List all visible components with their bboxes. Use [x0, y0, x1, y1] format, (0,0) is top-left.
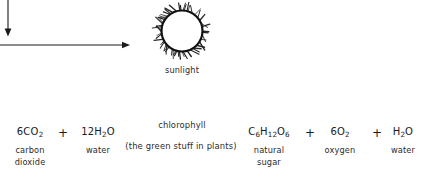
sun-icon [150, 1, 214, 61]
element-symbol: O [107, 126, 115, 137]
catalyst-description-label: (the green stuff in plants) [125, 142, 236, 150]
element-symbol: CO [23, 126, 38, 137]
product-name-glucose-line1: natural [254, 146, 284, 154]
reactant-formula-carbon-dioxide: 6CO2 [17, 127, 43, 138]
element-symbol: O [405, 126, 413, 137]
element-subscript: 2 [39, 130, 44, 139]
element-symbol: H [94, 126, 102, 137]
arrow-down-icon [0, 0, 428, 38]
sunlight-label: sunlight [165, 66, 199, 74]
product-formula-water: H2O [393, 127, 413, 138]
product-name-water: water [391, 146, 415, 154]
element-symbol: O [337, 126, 345, 137]
plus-operator-3: + [372, 127, 382, 139]
product-name-glucose-line2: sugar [257, 158, 281, 166]
product-formula-oxygen: 6O2 [330, 127, 349, 138]
reactant-formula-water: 12H2O [81, 127, 115, 138]
reactant-name-water: water [86, 146, 110, 154]
catalyst-chlorophyll-label: chlorophyll [158, 121, 206, 129]
product-name-oxygen: oxygen [325, 146, 356, 154]
element-symbol: H [260, 126, 268, 137]
element-subscript: 12 [268, 130, 277, 139]
coefficient: 12 [81, 126, 94, 137]
element-subscript: 6 [285, 130, 290, 139]
product-formula-glucose: C6H12O6 [248, 127, 289, 138]
reactant-name-carbon-dioxide-line1: carbon [15, 146, 44, 154]
element-symbol: H [393, 126, 401, 137]
photosynthesis-diagram: sunlight chlorophyll (the green stuff in… [0, 0, 428, 180]
element-subscript: 2 [345, 130, 350, 139]
arrow-right-icon [0, 38, 428, 52]
reactant-name-carbon-dioxide-line2: dioxide [15, 158, 46, 166]
element-symbol: O [277, 126, 285, 137]
plus-operator-1: + [58, 127, 68, 139]
plus-operator-2: + [305, 127, 315, 139]
